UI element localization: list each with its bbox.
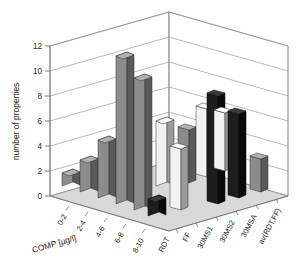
depth-label-6-8: 6-8 — [113, 231, 126, 245]
y-axis-title: number of properties — [11, 83, 21, 160]
bar-RDT-8-10 — [134, 74, 152, 210]
depth-axis-title: COMP [µg/l] — [31, 233, 78, 255]
depth-label-8-10: 8-10 — [131, 237, 146, 255]
bar-RDT-4-6 — [98, 136, 116, 198]
category-label-rdt: RDT — [156, 235, 171, 253]
depth-label-4-6: 4-6 — [94, 225, 107, 239]
ytick-4: 4 — [37, 142, 42, 151]
bar-RDT-2-4 — [80, 156, 98, 192]
bar-30MS1-8-10 — [170, 143, 188, 210]
bar-30MSA-8-10 — [228, 108, 246, 198]
ytick-2: 2 — [37, 167, 42, 176]
category-label-ff: FF — [180, 230, 192, 243]
y-axis: 0 2 4 6 8 10 12 — [33, 42, 50, 201]
ytick-12: 12 — [33, 42, 43, 51]
category-label-30msa: 30MSA — [239, 212, 259, 239]
ytick-10: 10 — [33, 67, 43, 76]
category-label-30ms1: 30MS1 — [196, 225, 215, 250]
bar-RDT-6-8 — [116, 52, 134, 204]
bar-FF-8-10 — [148, 195, 166, 216]
ytick-0: 0 — [37, 192, 42, 201]
ytick-6: 6 — [37, 117, 42, 126]
bar-avRDTFF-8-10 — [250, 153, 268, 192]
ytick-8: 8 — [37, 92, 42, 101]
category-label-30ms2: 30MS2 — [218, 219, 237, 244]
category-label-av-rdt-ff: av(RDT,FF) — [256, 206, 283, 245]
depth-label-2-4: 2-4 — [75, 219, 88, 233]
depth-label-0-2: 0-2 — [56, 213, 69, 227]
chart-canvas: 0 2 4 6 8 10 12 number of properties — [0, 0, 303, 280]
chart-3d-bar: 0 2 4 6 8 10 12 number of properties — [0, 0, 303, 280]
